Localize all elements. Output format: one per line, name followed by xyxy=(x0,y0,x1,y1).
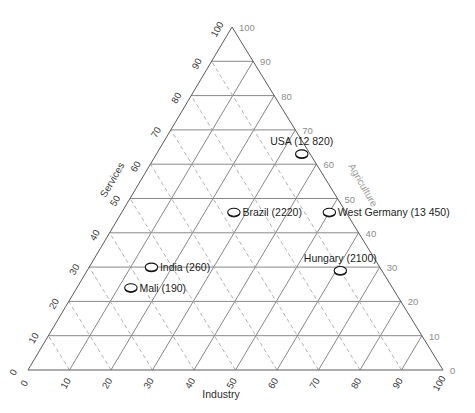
grid-line-services xyxy=(153,130,296,370)
data-point[interactable]: Mali (190) xyxy=(125,282,186,294)
tick-label-services-30: 30 xyxy=(67,262,82,277)
data-point[interactable]: India (260) xyxy=(145,261,210,273)
tick-label-agriculture-0: 0 xyxy=(450,365,455,376)
data-point-label: Mali (190) xyxy=(139,282,186,294)
data-point-label: USA (12 820) xyxy=(270,135,333,147)
grid-line-services xyxy=(319,267,380,370)
tick-label-agriculture-10: 10 xyxy=(429,331,440,342)
tick-label-services-80: 80 xyxy=(169,91,184,106)
tick-label-agriculture-20: 20 xyxy=(408,296,419,307)
tick-label-services-70: 70 xyxy=(148,125,163,140)
tick-label-agriculture-90: 90 xyxy=(260,56,271,67)
tick-label-services-90: 90 xyxy=(189,56,204,71)
tick-label-agriculture-50: 50 xyxy=(345,194,356,205)
tick-label-services-0: 0 xyxy=(7,367,19,377)
tick-label-agriculture-30: 30 xyxy=(387,262,398,273)
tick-label-industry-60: 60 xyxy=(266,376,281,391)
grid-line-services xyxy=(236,199,338,371)
tick-label-services-50: 50 xyxy=(108,193,123,208)
tick-label-industry-20: 20 xyxy=(100,376,115,391)
ternary-chart-canvas: 0102030405060708090100010203040506070809… xyxy=(0,0,475,413)
data-point-label: India (260) xyxy=(160,261,210,273)
data-point[interactable]: Brazil (2220) xyxy=(228,206,302,218)
tick-label-industry-100: 100 xyxy=(430,374,447,393)
marker-disc xyxy=(228,208,240,216)
data-points: Mali (190)India (260)Brazil (2220)Hungar… xyxy=(125,135,450,294)
grid-line-industry xyxy=(171,130,319,370)
tick-label-agriculture-40: 40 xyxy=(366,228,377,239)
tick-label-industry-70: 70 xyxy=(307,376,322,391)
marker-disc xyxy=(125,284,137,292)
marker-disc xyxy=(296,150,308,158)
tick-label-services-40: 40 xyxy=(87,228,102,243)
marker-disc xyxy=(323,208,335,216)
marker-disc xyxy=(145,263,157,271)
tick-label-industry-80: 80 xyxy=(349,376,364,391)
marker-disc xyxy=(334,267,346,275)
data-point-label: Hungary (2100) xyxy=(304,252,377,264)
tick-label-industry-90: 90 xyxy=(390,376,405,391)
grid-line-services xyxy=(402,336,422,370)
tick-label-services-60: 60 xyxy=(128,159,143,174)
tick-label-agriculture-60: 60 xyxy=(323,159,334,170)
tick-label-services-10: 10 xyxy=(26,331,41,346)
data-point[interactable]: West Germany (13 450) xyxy=(323,206,450,218)
tick-label-services-100: 100 xyxy=(208,20,225,39)
grid-line-services xyxy=(70,61,254,370)
data-point-label: Brazil (2220) xyxy=(242,206,302,218)
tick-label-agriculture-80: 80 xyxy=(281,91,292,102)
tick-label-industry-0: 0 xyxy=(18,378,30,388)
grid-line-industry xyxy=(48,336,69,370)
data-point-label: West Germany (13 450) xyxy=(338,206,450,218)
ternary-diagram: 0102030405060708090100010203040506070809… xyxy=(0,0,475,413)
tick-label-services-20: 20 xyxy=(46,296,61,311)
tick-label-industry-40: 40 xyxy=(183,376,198,391)
tick-label-industry-10: 10 xyxy=(58,376,73,391)
axis-title-industry: Industry xyxy=(202,388,240,400)
tick-label-industry-30: 30 xyxy=(141,376,156,391)
tick-label-agriculture-100: 100 xyxy=(239,22,255,33)
